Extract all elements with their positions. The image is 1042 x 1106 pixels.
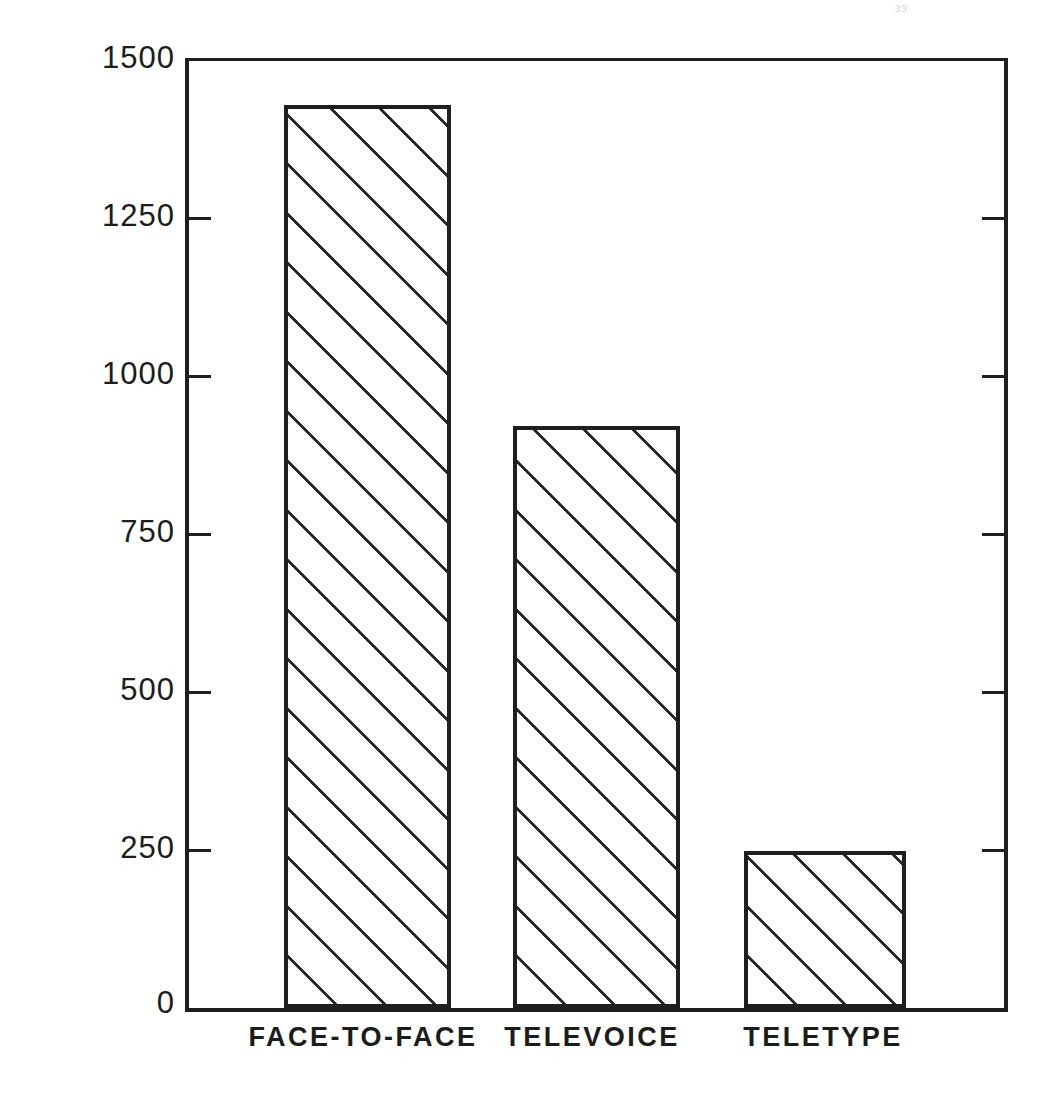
chart-page: 39 MEAN NUMBER OF WORDS PER PERSON 1500 …: [0, 0, 1042, 1106]
bar-teletype: [744, 851, 906, 1008]
x-tick-label-televoice: TELEVOICE: [492, 1022, 692, 1053]
bar-televoice: [513, 426, 680, 1008]
y-axis-tick-750-right: [982, 533, 1004, 536]
y-axis-tick-500-right: [982, 691, 1004, 694]
y-axis-tick-1250-left: [189, 217, 211, 220]
y-axis-tick-500-left: [189, 691, 211, 694]
bar-face-to-face: [284, 105, 451, 1008]
y-tick-label-1000: 1000: [25, 356, 175, 392]
y-axis-tick-750-left: [189, 533, 211, 536]
y-tick-label-1250: 1250: [25, 198, 175, 234]
y-tick-label-250: 250: [25, 830, 175, 866]
x-tick-label-face-to-face: FACE-TO-FACE: [248, 1022, 478, 1053]
page-number-artifact: 39: [895, 2, 921, 14]
plot-area: [185, 58, 1008, 1012]
y-axis-tick-250-right: [982, 849, 1004, 852]
y-axis-tick-1000-right: [982, 375, 1004, 378]
y-tick-label-0: 0: [25, 985, 175, 1021]
y-tick-label-750: 750: [25, 514, 175, 550]
y-axis-tick-1250-right: [982, 217, 1004, 220]
y-tick-label-1500: 1500: [25, 40, 175, 76]
y-tick-label-500: 500: [25, 672, 175, 708]
y-axis-tick-250-left: [189, 849, 211, 852]
y-axis-tick-1000-left: [189, 375, 211, 378]
x-tick-label-teletype: TELETYPE: [728, 1022, 918, 1053]
